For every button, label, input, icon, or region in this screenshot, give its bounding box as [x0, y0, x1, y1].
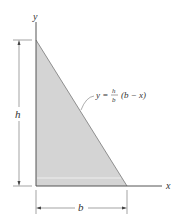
h-dimension-label: h — [15, 108, 21, 120]
equation-lhs: y = — [95, 90, 108, 100]
equation-denominator: b — [112, 96, 116, 104]
b-arrow-left-icon — [36, 207, 41, 210]
equation-rhs: (b − x) — [121, 90, 146, 100]
triangle-diagram: y x h b y = h b (b − x) — [0, 0, 181, 222]
y-axis-label: y — [32, 11, 38, 22]
h-arrow-down-icon — [18, 181, 21, 186]
equation-numerator: h — [112, 87, 116, 95]
h-arrow-up-icon — [18, 40, 21, 45]
b-dimension-label: b — [78, 201, 84, 213]
curve-equation: y = h b (b − x) — [95, 87, 146, 104]
x-axis-label: x — [165, 180, 171, 191]
b-arrow-right-icon — [122, 207, 127, 210]
equation-leader-line — [81, 96, 94, 110]
